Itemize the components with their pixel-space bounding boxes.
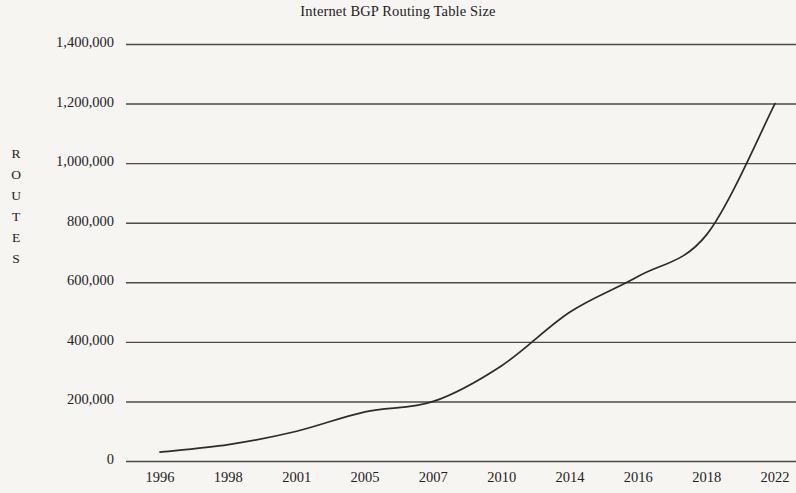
y-axis-tick-label: 0 [14,451,114,468]
x-axis-tick-label: 2018 [674,469,740,486]
gridlines [126,45,796,462]
x-axis-tick-label: 2007 [400,469,466,486]
y-axis-tick-label: 1,400,000 [14,34,114,51]
y-axis-tick-label: 1,200,000 [14,94,114,111]
y-axis-tick-label: 200,000 [14,391,114,408]
y-axis-tick-label: 800,000 [14,213,114,230]
x-axis-tick-label: 2014 [537,469,603,486]
plot-area [0,0,796,493]
x-axis-tick-label: 2005 [332,469,398,486]
y-axis-tick-label: 600,000 [14,272,114,289]
x-axis-tick-label: 2001 [264,469,330,486]
x-axis-tick-label: 1998 [195,469,261,486]
x-axis-tick-label: 2016 [605,469,671,486]
x-axis-tick-label: 2010 [469,469,535,486]
x-axis-tick-label: 2022 [742,469,796,486]
bgp-routing-table-chart: Internet BGP Routing Table Size R O U T … [0,0,796,493]
x-axis-tick-label: 1996 [127,469,193,486]
routes-data-line [160,104,775,452]
y-axis-tick-label: 1,000,000 [14,153,114,170]
y-axis-tick-label: 400,000 [14,332,114,349]
